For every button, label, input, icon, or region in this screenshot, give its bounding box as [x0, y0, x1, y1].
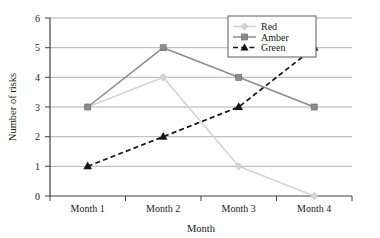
y-axis-title: Number of risks [7, 73, 18, 141]
chart-canvas: 6 5 4 3 2 1 0 Month 1 Month 2 Month 3 Mo… [0, 0, 380, 238]
series-amber-marker-1 [160, 45, 166, 51]
legend-label-green: Green [261, 42, 285, 53]
x-tick-label-3: Month 4 [297, 203, 331, 214]
chart-legend: Red Amber Green [228, 16, 316, 57]
x-tick-label-0: Month 1 [71, 203, 105, 214]
series-amber-marker-3 [311, 104, 317, 110]
y-tick-label-4: 4 [35, 72, 40, 83]
y-tick-label-2: 2 [35, 131, 40, 142]
series-amber-marker-0 [85, 104, 91, 110]
x-tick-label-1: Month 2 [146, 203, 180, 214]
y-tick-label-0: 0 [35, 191, 40, 202]
line-chart: 6 5 4 3 2 1 0 Month 1 Month 2 Month 3 Mo… [0, 0, 380, 238]
legend-label-amber: Amber [261, 32, 289, 43]
y-tick-label-3: 3 [35, 102, 40, 113]
x-axis-title: Month [187, 223, 216, 234]
series-amber-marker-2 [236, 74, 242, 80]
legend-label-red: Red [261, 21, 277, 32]
y-tick-label-6: 6 [35, 13, 40, 24]
legend-swatch-marker-amber [242, 34, 248, 40]
y-tick-label-1: 1 [35, 161, 40, 172]
x-tick-label-2: Month 3 [222, 203, 256, 214]
y-tick-label-5: 5 [35, 42, 40, 53]
